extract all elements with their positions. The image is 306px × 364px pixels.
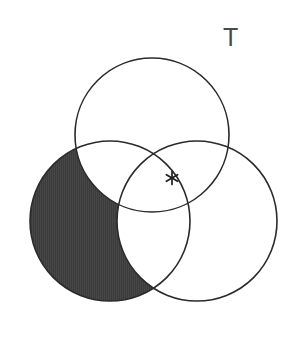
shaded-region-left-only xyxy=(0,0,306,364)
venn-diagram-figure: T xyxy=(0,0,306,364)
set-label-t: T xyxy=(223,25,239,50)
shaded-region-fill xyxy=(0,0,306,364)
venn-diagram-canvas xyxy=(0,0,306,364)
